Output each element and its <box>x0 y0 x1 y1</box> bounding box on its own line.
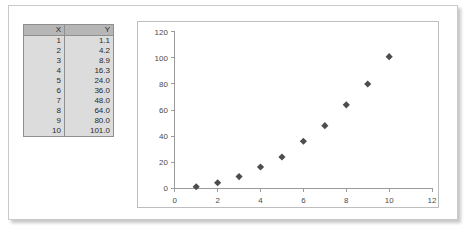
table-row[interactable]: 748.0 <box>24 96 114 106</box>
data-point <box>214 179 221 186</box>
cell-y: 101.0 <box>65 126 114 137</box>
data-table: X Y 11.124.238.9416.3524.0636.0748.0864.… <box>23 24 114 137</box>
data-point <box>386 53 393 60</box>
cell-x: 8 <box>24 106 65 116</box>
data-point <box>257 163 264 170</box>
table-row[interactable]: 11.1 <box>24 36 114 47</box>
cell-x: 6 <box>24 86 65 96</box>
y-tick-label: 120 <box>155 28 169 37</box>
x-tick-label: 12 <box>428 196 437 205</box>
y-tick-label: 40 <box>159 132 168 141</box>
axes <box>175 32 432 188</box>
y-tick-label: 0 <box>163 184 168 193</box>
data-point <box>343 101 350 108</box>
table-row[interactable]: 10101.0 <box>24 126 114 137</box>
y-tick-label: 60 <box>159 106 168 115</box>
y-tick-label: 100 <box>155 54 169 63</box>
cell-x: 4 <box>24 66 65 76</box>
table-row[interactable]: 864.0 <box>24 106 114 116</box>
data-point <box>300 138 307 145</box>
y-axis-ticks: 020406080100120 <box>155 28 175 193</box>
cell-y: 36.0 <box>65 86 114 96</box>
data-point <box>236 173 243 180</box>
cell-y: 64.0 <box>65 106 114 116</box>
cell-x: 1 <box>24 36 65 47</box>
cell-y: 24.0 <box>65 76 114 86</box>
data-point <box>321 122 328 129</box>
table-row[interactable]: 38.9 <box>24 56 114 66</box>
x-tick-label: 8 <box>344 196 349 205</box>
x-tick-label: 0 <box>173 196 178 205</box>
y-tick-label: 20 <box>159 158 168 167</box>
x-tick-label: 6 <box>301 196 306 205</box>
data-point <box>278 153 285 160</box>
data-markers <box>193 53 393 190</box>
cell-y: 1.1 <box>65 36 114 47</box>
chart-container[interactable]: 020406080100120 024681012 <box>137 21 439 208</box>
table-row[interactable]: 416.3 <box>24 66 114 76</box>
table-row[interactable]: 636.0 <box>24 86 114 96</box>
table-body: 11.124.238.9416.3524.0636.0748.0864.0980… <box>24 36 114 137</box>
column-header-x[interactable]: X <box>24 25 65 36</box>
table-row[interactable]: 24.2 <box>24 46 114 56</box>
cell-x: 2 <box>24 46 65 56</box>
cell-y: 80.0 <box>65 116 114 126</box>
cell-x: 9 <box>24 116 65 126</box>
x-tick-label: 4 <box>258 196 263 205</box>
table-header: X Y <box>24 25 114 36</box>
document-page: X Y 11.124.238.9416.3524.0636.0748.0864.… <box>8 5 458 220</box>
cell-y: 48.0 <box>65 96 114 106</box>
x-tick-label: 2 <box>215 196 219 205</box>
table-header-row: X Y <box>24 25 114 36</box>
cell-x: 3 <box>24 56 65 66</box>
table-row[interactable]: 524.0 <box>24 76 114 86</box>
scatter-plot: 020406080100120 024681012 <box>138 22 438 207</box>
cell-y: 8.9 <box>65 56 114 66</box>
cell-x: 7 <box>24 96 65 106</box>
cell-y: 16.3 <box>65 66 114 76</box>
x-axis-ticks: 024681012 <box>173 188 437 205</box>
table-row[interactable]: 980.0 <box>24 116 114 126</box>
cell-x: 10 <box>24 126 65 137</box>
column-header-y[interactable]: Y <box>65 25 114 36</box>
x-tick-label: 10 <box>385 196 394 205</box>
data-point <box>193 183 200 190</box>
cell-y: 4.2 <box>65 46 114 56</box>
data-point <box>364 80 371 87</box>
cell-x: 5 <box>24 76 65 86</box>
y-tick-label: 80 <box>159 80 168 89</box>
